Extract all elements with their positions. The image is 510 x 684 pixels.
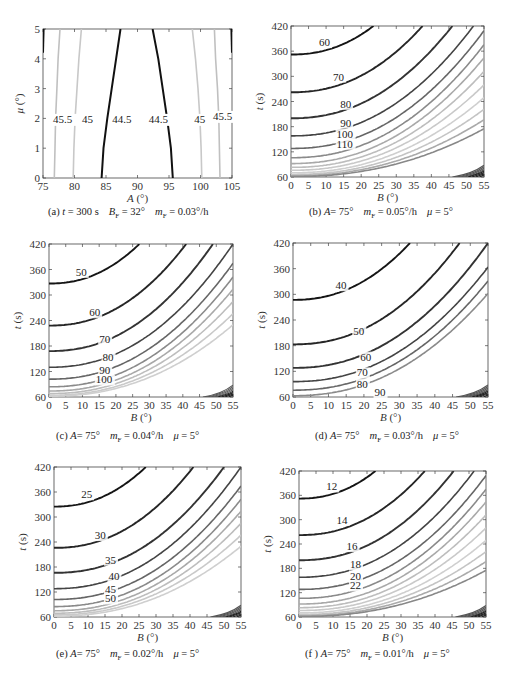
x-tick-label: 10	[321, 179, 333, 191]
caption-parameter: μ = 5°	[424, 648, 450, 659]
x-tick-label: 45	[447, 619, 459, 631]
contour-label: 60	[360, 351, 372, 363]
y-axis-label: t (s)	[11, 311, 24, 329]
caption-f: (f ) A= 75°mF = 0.01°/hμ = 5°	[305, 648, 450, 662]
caption-a: (a) t = 300 sBF = 32°mF = 0.03°/h	[48, 206, 208, 220]
contour-label: 45.5	[53, 113, 73, 125]
x-tick-label: 30	[391, 179, 403, 191]
y-tick-label: 3	[35, 83, 41, 95]
x-tick-label: 85	[101, 180, 113, 192]
contour-label: 45	[194, 113, 206, 125]
plot-area	[43, 29, 232, 178]
contour-label: 30	[95, 529, 107, 541]
x-tick-label: 25	[373, 179, 385, 191]
x-tick-label: 105	[224, 180, 241, 192]
caption-label: (f )	[305, 648, 321, 659]
y-tick-label: 420	[272, 20, 289, 32]
x-tick-label: 20	[356, 179, 368, 191]
x-tick-label: 80	[69, 180, 81, 192]
x-tick-label: 35	[408, 179, 420, 191]
x-axis-label: A (°)	[126, 192, 149, 205]
x-tick-label: 30	[151, 619, 163, 631]
x-tick-label: 10	[323, 399, 335, 411]
x-tick-label: 50	[464, 619, 476, 631]
y-tick-label: 360	[274, 263, 291, 275]
contour-label: 12	[326, 480, 337, 492]
x-axis-label: B (°)	[382, 631, 404, 644]
caption-d: (d) A= 75°mF = 0.03°/hμ = 5°	[315, 430, 459, 444]
x-tick-label: 5	[63, 399, 69, 411]
x-tick-label: 0	[51, 619, 57, 631]
x-axis-label: B (°)	[130, 411, 152, 424]
x-tick-label: 0	[296, 619, 302, 631]
x-tick-label: 25	[127, 399, 139, 411]
y-tick-label: 120	[30, 366, 47, 378]
y-axis-label: t (s)	[253, 92, 266, 110]
contour-label: 80	[103, 351, 115, 363]
y-tick-label: 300	[280, 514, 297, 526]
y-tick-label: 360	[272, 45, 289, 57]
x-tick-label: 20	[110, 399, 122, 411]
panel-d: 0510152025303540455055601201802403003604…	[255, 230, 510, 455]
caption-parameter: mF = 0.03°/h	[370, 430, 423, 441]
caption-label: (e)	[56, 648, 70, 659]
x-tick-label: 25	[376, 399, 388, 411]
contour-plot-b: 0510152025303540455055601201802403003604…	[255, 0, 510, 228]
caption-parameter: mF = 0.03°/h	[155, 206, 208, 217]
y-tick-label: 120	[35, 586, 52, 598]
caption-parameter: μ = 5°	[433, 430, 459, 441]
contour-label: 110	[337, 138, 354, 150]
y-tick-label: 60	[40, 611, 52, 623]
y-tick-label: 180	[30, 340, 47, 352]
x-tick-label: 55	[228, 399, 240, 411]
contour-label: 50	[353, 325, 365, 337]
contour-label: 35	[105, 554, 117, 566]
x-tick-label: 30	[394, 399, 406, 411]
x-tick-label: 55	[483, 399, 495, 411]
y-tick-label: 360	[35, 486, 52, 498]
x-tick-label: 20	[358, 399, 370, 411]
x-tick-label: 5	[68, 619, 74, 631]
x-axis-label: B (°)	[137, 631, 159, 644]
x-tick-label: 35	[413, 619, 425, 631]
contour-plot-d: 0510152025303540455055601201802403003604…	[255, 230, 510, 455]
plot-area	[299, 471, 486, 617]
contour-label: 40	[108, 570, 120, 582]
caption-parameter: t = 300 s	[62, 206, 99, 217]
x-tick-label: 5	[313, 619, 319, 631]
contour-label: 45	[82, 113, 94, 125]
x-tick-label: 20	[362, 619, 374, 631]
x-tick-label: 55	[479, 179, 491, 191]
x-tick-label: 0	[46, 399, 52, 411]
caption-parameter: mF = 0.02°/h	[110, 648, 163, 659]
contour-label: 70	[99, 333, 111, 345]
x-axis-label: B (°)	[377, 191, 399, 204]
caption-label: (b)	[309, 206, 324, 217]
x-tick-label: 40	[429, 399, 441, 411]
contour-line	[231, 29, 232, 53]
caption-parameter: μ = 5°	[173, 648, 199, 659]
caption-parameter: mF = 0.01°/h	[360, 648, 413, 659]
y-tick-label: 120	[280, 587, 297, 599]
x-tick-label: 45	[202, 619, 214, 631]
contour-label: 80	[357, 378, 369, 390]
x-tick-label: 40	[426, 179, 438, 191]
panel-b: 0510152025303540455055601201802403003604…	[255, 0, 510, 228]
contour-label: 44.5	[112, 113, 132, 125]
contour-plot-a: 7580859095100105012345A (°)μ (°)44.544.5…	[0, 0, 255, 228]
y-tick-label: 360	[280, 489, 297, 501]
y-tick-label: 60	[35, 391, 47, 403]
x-axis-label: B (°)	[380, 411, 402, 424]
x-tick-label: 100	[192, 180, 209, 192]
y-axis-label: t (s)	[261, 535, 274, 553]
caption-parameter: mF = 0.04°/h	[110, 430, 163, 441]
y-tick-label: 300	[35, 511, 52, 523]
y-tick-label: 120	[274, 365, 291, 377]
contour-line	[43, 29, 44, 53]
contour-label: 16	[347, 540, 359, 552]
contour-label: 70	[333, 71, 345, 83]
x-tick-label: 35	[168, 619, 180, 631]
x-tick-label: 15	[94, 399, 106, 411]
x-tick-label: 15	[338, 179, 350, 191]
y-tick-label: 240	[35, 536, 52, 548]
